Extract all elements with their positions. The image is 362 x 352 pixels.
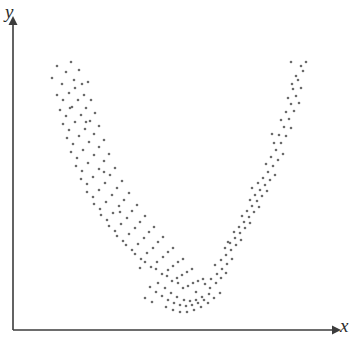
data-point xyxy=(292,88,295,91)
data-point xyxy=(221,268,224,271)
data-point xyxy=(215,282,218,285)
data-point xyxy=(108,153,111,156)
data-point xyxy=(201,296,204,299)
data-point xyxy=(271,133,274,136)
scatter-plot-figure: y x xyxy=(0,0,362,352)
data-point xyxy=(203,299,206,302)
data-point xyxy=(74,121,77,124)
data-point xyxy=(70,151,73,154)
data-point xyxy=(225,272,228,275)
data-point xyxy=(295,95,298,98)
data-point xyxy=(86,191,89,194)
data-point xyxy=(302,70,305,73)
data-point xyxy=(240,239,243,242)
data-point xyxy=(177,282,180,285)
data-point xyxy=(182,287,185,290)
data-point xyxy=(216,273,219,276)
data-point xyxy=(144,297,147,300)
data-point xyxy=(253,211,256,214)
data-point xyxy=(209,287,212,290)
data-point xyxy=(136,204,139,207)
data-point xyxy=(172,265,175,268)
data-point xyxy=(251,205,254,208)
data-point xyxy=(200,306,203,309)
data-point xyxy=(293,110,296,113)
data-point xyxy=(161,295,164,298)
data-point xyxy=(92,196,95,199)
data-point xyxy=(172,309,175,312)
data-point xyxy=(98,189,101,192)
data-point xyxy=(65,71,68,74)
data-point xyxy=(99,208,102,211)
data-point xyxy=(213,297,216,300)
data-point xyxy=(100,214,103,217)
data-point xyxy=(186,271,189,274)
data-point xyxy=(285,111,288,114)
data-point xyxy=(98,168,101,171)
data-point xyxy=(121,180,124,183)
data-point xyxy=(266,190,269,193)
data-point xyxy=(167,299,170,302)
data-point xyxy=(162,256,165,259)
data-point xyxy=(272,165,275,168)
data-point xyxy=(241,215,244,218)
data-point xyxy=(66,137,69,140)
data-point xyxy=(123,199,126,202)
data-point xyxy=(290,61,293,64)
data-point xyxy=(65,115,68,118)
data-point xyxy=(152,247,155,250)
data-point xyxy=(177,261,180,264)
data-point xyxy=(249,199,252,202)
data-point xyxy=(231,258,234,261)
data-point xyxy=(290,127,293,130)
data-point xyxy=(149,286,152,289)
data-point xyxy=(140,258,143,261)
data-point xyxy=(144,215,147,218)
data-point xyxy=(278,134,281,137)
data-point xyxy=(87,81,90,84)
data-point xyxy=(298,102,301,105)
data-point xyxy=(195,299,198,302)
data-point xyxy=(75,165,78,168)
data-point xyxy=(305,61,308,64)
data-point xyxy=(225,254,228,257)
data-point xyxy=(234,237,237,240)
data-point xyxy=(185,305,188,308)
data-point xyxy=(244,227,247,230)
data-point xyxy=(277,159,280,162)
data-point xyxy=(220,277,223,280)
data-point xyxy=(208,293,211,296)
data-point xyxy=(262,177,265,180)
data-point xyxy=(81,170,84,173)
data-point xyxy=(172,247,175,250)
data-point xyxy=(176,277,179,280)
data-point xyxy=(114,230,117,233)
data-point xyxy=(267,171,270,174)
data-point xyxy=(78,135,81,138)
data-point xyxy=(119,211,122,214)
data-point xyxy=(72,143,75,146)
data-point xyxy=(122,240,125,243)
data-point xyxy=(59,109,62,112)
data-point xyxy=(103,160,106,163)
data-point xyxy=(80,178,83,181)
data-point xyxy=(69,107,72,110)
data-point xyxy=(297,79,300,82)
data-point xyxy=(285,135,288,138)
data-point xyxy=(98,125,101,128)
data-point xyxy=(165,306,168,309)
data-point xyxy=(148,231,151,234)
data-point xyxy=(191,268,194,271)
data-point xyxy=(282,153,285,156)
data-point xyxy=(156,261,159,264)
data-point xyxy=(61,83,64,86)
data-point xyxy=(261,195,264,198)
data-point xyxy=(176,296,179,299)
data-point xyxy=(170,292,173,295)
data-point xyxy=(90,99,93,102)
data-point xyxy=(137,243,140,246)
data-point xyxy=(112,212,115,215)
data-point xyxy=(226,263,229,266)
data-point xyxy=(166,275,169,278)
data-point xyxy=(235,244,238,247)
